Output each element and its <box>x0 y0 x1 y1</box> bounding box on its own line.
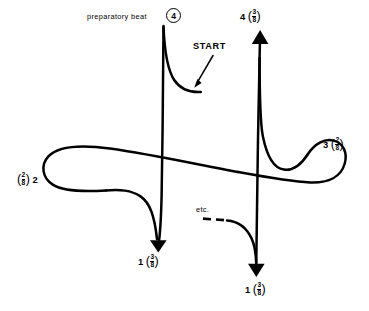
paren-open: ( <box>146 255 150 268</box>
conducting-pattern-figure: preparatory beat 4 START etc. 4 ( 3 8 ) … <box>0 0 369 311</box>
etc-continuation-curve <box>227 220 256 262</box>
paren-close: ) <box>256 10 260 23</box>
beat-number: 1 <box>138 257 143 266</box>
etc-label: etc. <box>196 206 209 213</box>
beat-number: 1 <box>245 285 250 294</box>
beat-number: 4 <box>240 12 245 21</box>
left-vertical-stroke <box>159 26 164 244</box>
beat-label-4: 4 ( 3 8 ) <box>240 9 261 24</box>
paren-open: ( <box>331 138 335 151</box>
paren-close: ) <box>26 173 30 186</box>
beat-label-2: ( 2 8 ) 2 <box>17 172 38 187</box>
paren-close: ) <box>154 255 158 268</box>
paren-close: ) <box>261 283 265 296</box>
beat-label-1-left: 1 ( 3 8 ) <box>138 254 159 269</box>
beat-number: 2 <box>32 175 37 184</box>
preparatory-beat-number-circle: 4 <box>166 8 181 23</box>
conducting-pattern-strokes <box>0 0 369 311</box>
paren-open: ( <box>248 10 252 23</box>
paren-open: ( <box>253 283 257 296</box>
beat-4-arrowhead <box>252 30 269 44</box>
beat-2-loop-upper <box>43 146 238 191</box>
start-pointer-arrow <box>194 56 213 88</box>
beat-1-right-arrowhead <box>248 264 265 277</box>
beat-label-3: 3 ( 2 8 ) <box>323 137 344 152</box>
paren-close: ) <box>339 138 343 151</box>
start-label: START <box>193 42 226 51</box>
paren-open: ( <box>17 173 21 186</box>
beat-2-loop-lower <box>106 190 157 239</box>
beat-3-hook-curve <box>260 58 308 170</box>
preparatory-beat-label: preparatory beat <box>87 13 147 20</box>
beat-1-left-arrowhead <box>150 240 167 252</box>
etc-dashed-lead <box>203 219 227 221</box>
beat-number: 3 <box>323 140 328 149</box>
start-hook-curve <box>164 27 201 92</box>
beat-label-1-right: 1 ( 3 8 ) <box>245 282 266 297</box>
